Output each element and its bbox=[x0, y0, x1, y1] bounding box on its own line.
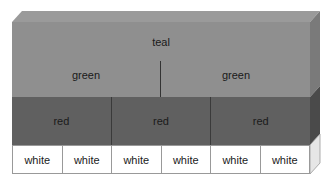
layer-block-diagram: teal green green red red red white white… bbox=[0, 0, 333, 188]
white-cell: white bbox=[162, 146, 212, 173]
white-cell: white bbox=[112, 146, 162, 173]
green-divider bbox=[160, 61, 161, 97]
red-cell: red bbox=[12, 97, 112, 145]
white-cell: white bbox=[261, 146, 310, 173]
green-label-left: green bbox=[12, 69, 160, 81]
teal-label: teal bbox=[12, 36, 310, 48]
white-cell: white bbox=[63, 146, 113, 173]
red-layer: red red red bbox=[12, 97, 310, 145]
red-cell: red bbox=[211, 97, 310, 145]
white-layer: white white white white white white bbox=[12, 145, 310, 174]
green-label-right: green bbox=[162, 69, 310, 81]
white-cell: white bbox=[13, 146, 63, 173]
red-cell: red bbox=[112, 97, 212, 145]
white-cell: white bbox=[211, 146, 261, 173]
teal-layer: teal green green bbox=[12, 22, 310, 97]
